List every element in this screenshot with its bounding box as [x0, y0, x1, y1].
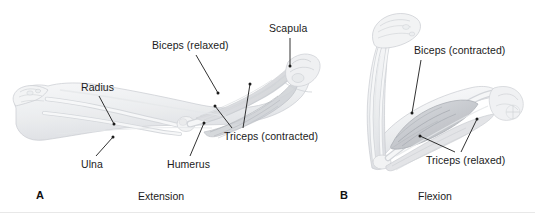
leader-triceps-relaxed-2	[461, 119, 477, 152]
anatomy-artwork	[0, 0, 535, 213]
panel-caption-extension: Extension	[138, 190, 184, 202]
leader-lines	[0, 0, 535, 213]
panel-b-arm	[367, 14, 523, 171]
label-triceps-contracted: Triceps (contracted)	[224, 130, 318, 142]
label-radius: Radius	[81, 81, 114, 93]
label-biceps-relaxed: Biceps (relaxed)	[152, 39, 229, 51]
label-scapula: Scapula	[269, 22, 307, 34]
leader-triceps-contracted-1	[215, 106, 232, 128]
label-ulna: Ulna	[81, 158, 103, 170]
leader-triceps-relaxed-1	[420, 136, 455, 152]
leader-triceps-contracted-2	[243, 84, 250, 128]
panel-letter-b: B	[340, 189, 348, 201]
panel-letter-a: A	[36, 189, 44, 201]
label-triceps-relaxed: Triceps (relaxed)	[426, 154, 505, 166]
label-biceps-contracted: Biceps (contracted)	[414, 44, 505, 56]
leader-radius	[99, 96, 114, 124]
panel-caption-flexion: Flexion	[418, 190, 452, 202]
leader-biceps-relaxed	[196, 55, 218, 93]
anatomy-figure: Radius Ulna Humerus Biceps (relaxed) Sca…	[0, 0, 535, 213]
leader-biceps-contracted	[412, 60, 421, 113]
panel-a-arm	[13, 54, 320, 140]
label-humerus: Humerus	[167, 158, 210, 170]
leader-humerus	[190, 123, 204, 156]
leader-ulna	[96, 137, 113, 156]
